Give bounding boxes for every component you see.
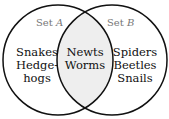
set-a-items: SnakesHedge-hogs [14,46,60,85]
set-b-items: SpidersBeetlesSnails [112,46,158,85]
intersection-items: NewtsWorms [63,46,107,72]
set-b-label: Set B [107,17,134,28]
set-a-label: Set A [36,17,63,28]
